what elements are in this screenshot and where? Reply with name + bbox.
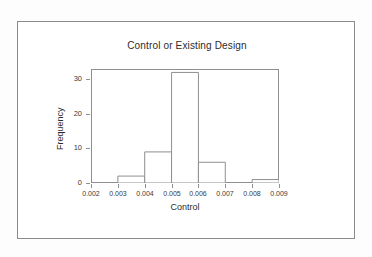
- histogram-bar: [172, 72, 199, 183]
- histogram-screenshot: Control or Existing Design 0102030 0.002…: [0, 0, 372, 257]
- y-axis-tick-mark: [86, 148, 90, 149]
- histogram-bar: [198, 162, 225, 183]
- x-axis-title: Control: [91, 202, 279, 212]
- x-axis-tick-mark: [91, 184, 92, 188]
- chart-title: Control or Existing Design: [18, 40, 356, 51]
- y-axis-tick-mark: [86, 79, 90, 80]
- histogram-bar: [145, 152, 172, 183]
- x-axis-tick-mark: [225, 184, 226, 188]
- x-axis-tick-mark: [172, 184, 173, 188]
- x-axis-tick-label: 0.009: [262, 190, 296, 197]
- y-axis-tick-label: 0: [60, 179, 82, 187]
- figure-frame: Control or Existing Design 0102030 0.002…: [17, 21, 355, 239]
- x-axis-tick-mark: [279, 184, 280, 188]
- y-axis-tick-mark: [86, 183, 90, 184]
- y-axis-tick-label: 30: [60, 75, 82, 83]
- x-axis-tick-mark: [252, 184, 253, 188]
- histogram-bar: [118, 176, 145, 183]
- plot-area: [91, 69, 279, 183]
- x-axis-tick-mark: [145, 184, 146, 188]
- y-axis-title: Frequency: [55, 107, 65, 150]
- x-axis-tick-mark: [198, 184, 199, 188]
- y-axis-tick-mark: [86, 114, 90, 115]
- histogram-bar: [252, 180, 279, 183]
- histogram-bars: [91, 69, 279, 183]
- x-axis-tick-mark: [118, 184, 119, 188]
